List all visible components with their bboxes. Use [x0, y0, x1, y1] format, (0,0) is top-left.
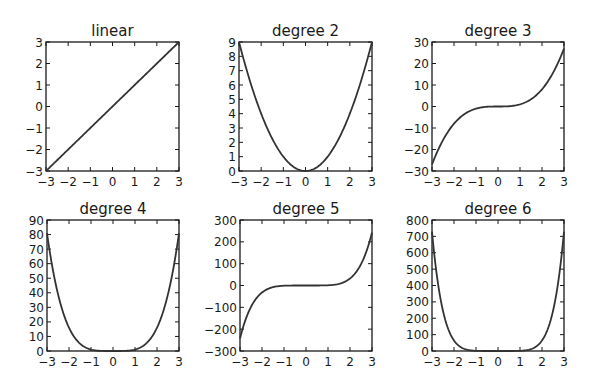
- y-tick-label: 2: [228, 136, 236, 150]
- y-tick-label: 600: [406, 246, 429, 260]
- y-tick-label: 6: [228, 79, 236, 93]
- y-tick-label: 800: [406, 214, 429, 228]
- plot-frame: [47, 220, 179, 351]
- x-tick-label: −2: [252, 175, 270, 189]
- y-tick-label: −10: [404, 122, 429, 136]
- x-tick-label: 0: [302, 175, 310, 189]
- y-tick-label: 400: [406, 279, 429, 293]
- subplot-title: degree 2: [272, 22, 339, 40]
- subplot-3: degree 3−3−2−10123−30−20−100102030: [404, 22, 568, 189]
- y-tick-label: 9: [228, 36, 236, 50]
- x-tick-label: −1: [467, 355, 485, 369]
- y-tick-label: 500: [406, 263, 429, 277]
- x-tick-label: 2: [153, 175, 161, 189]
- subplot-title: degree 5: [273, 200, 340, 218]
- x-tick-label: −1: [275, 355, 293, 369]
- x-tick-label: 2: [346, 175, 354, 189]
- y-tick-label: 20: [414, 57, 429, 71]
- y-tick-label: −3: [25, 165, 43, 179]
- y-tick-label: 1: [35, 79, 43, 93]
- y-tick-label: −200: [204, 323, 237, 337]
- subplot-grid: linear−3−2−10123−3−2−10123degree 2−3−2−1…: [25, 22, 568, 369]
- y-tick-label: 90: [29, 214, 44, 228]
- subplot-1: linear−3−2−10123−3−2−10123: [25, 22, 183, 189]
- y-tick-label: −20: [404, 143, 429, 157]
- y-tick-label: 700: [406, 230, 429, 244]
- y-tick-label: 80: [29, 228, 44, 242]
- x-tick-label: 3: [368, 355, 376, 369]
- figure-canvas: linear−3−2−10123−3−2−10123degree 2−3−2−1…: [0, 0, 591, 392]
- y-tick-label: 40: [29, 286, 44, 300]
- y-tick-label: 10: [29, 330, 44, 344]
- subplot-6: degree 6−3−2−101230100200300400500600700…: [406, 200, 568, 369]
- subplot-2: degree 2−3−2−101230123456789: [228, 22, 375, 189]
- y-tick-label: 3: [35, 36, 43, 50]
- y-tick-label: −300: [204, 345, 237, 359]
- y-tick-label: 200: [406, 312, 429, 326]
- y-tick-label: 0: [229, 279, 237, 293]
- x-tick-label: 3: [560, 355, 568, 369]
- x-tick-label: −2: [253, 355, 271, 369]
- x-tick-label: 3: [175, 355, 183, 369]
- x-tick-label: −1: [467, 175, 485, 189]
- x-tick-label: −2: [445, 355, 463, 369]
- x-tick-label: −2: [445, 175, 463, 189]
- x-tick-label: 2: [153, 355, 161, 369]
- y-tick-label: 50: [29, 272, 44, 286]
- y-tick-label: −1: [25, 122, 43, 136]
- y-tick-label: 0: [421, 345, 429, 359]
- x-tick-label: 1: [131, 355, 139, 369]
- x-tick-label: −1: [82, 355, 100, 369]
- subplot-title: degree 3: [465, 22, 532, 40]
- x-tick-label: 1: [324, 355, 332, 369]
- y-tick-label: 5: [228, 93, 236, 107]
- y-tick-label: 100: [406, 328, 429, 342]
- y-tick-label: 30: [29, 301, 44, 315]
- y-tick-label: 300: [406, 295, 429, 309]
- subplot-title: linear: [91, 22, 134, 40]
- y-tick-label: 0: [35, 100, 43, 114]
- x-tick-label: 2: [538, 175, 546, 189]
- subplot-title: degree 6: [465, 200, 532, 218]
- y-tick-label: 30: [414, 36, 429, 50]
- y-tick-label: 60: [29, 257, 44, 271]
- x-tick-label: 3: [560, 175, 568, 189]
- y-tick-label: −30: [404, 165, 429, 179]
- y-tick-label: 20: [29, 315, 44, 329]
- subplot-4: degree 4−3−2−101230102030405060708090: [29, 200, 183, 369]
- x-tick-label: 1: [516, 175, 524, 189]
- x-tick-label: −2: [59, 175, 77, 189]
- x-tick-label: 1: [131, 175, 139, 189]
- x-tick-label: −2: [60, 355, 78, 369]
- x-tick-label: 2: [346, 355, 354, 369]
- x-tick-label: 0: [494, 355, 502, 369]
- y-tick-label: 7: [228, 64, 236, 78]
- x-tick-label: 0: [109, 355, 117, 369]
- y-tick-label: 200: [214, 235, 237, 249]
- x-tick-label: 1: [324, 175, 332, 189]
- x-tick-label: 1: [516, 355, 524, 369]
- y-tick-label: 4: [228, 107, 236, 121]
- y-tick-label: −2: [25, 143, 43, 157]
- y-tick-label: 3: [228, 122, 236, 136]
- y-tick-label: 2: [35, 57, 43, 71]
- x-tick-label: 3: [368, 175, 376, 189]
- x-tick-label: 3: [175, 175, 183, 189]
- x-tick-label: −1: [274, 175, 292, 189]
- y-tick-label: 8: [228, 50, 236, 64]
- plot-frame: [432, 220, 564, 351]
- y-tick-label: 0: [421, 100, 429, 114]
- y-tick-label: −100: [204, 301, 237, 315]
- x-tick-label: 0: [494, 175, 502, 189]
- y-tick-label: 0: [36, 345, 44, 359]
- y-tick-label: 100: [214, 257, 237, 271]
- x-tick-label: 0: [302, 355, 310, 369]
- x-tick-label: 2: [538, 355, 546, 369]
- y-tick-label: 0: [228, 165, 236, 179]
- y-tick-label: 70: [29, 243, 44, 257]
- subplot-title: degree 4: [80, 200, 147, 218]
- y-tick-label: 300: [214, 214, 237, 228]
- x-tick-label: 0: [109, 175, 117, 189]
- subplot-5: degree 5−3−2−10123−300−200−1000100200300: [204, 200, 376, 369]
- y-tick-label: 10: [414, 79, 429, 93]
